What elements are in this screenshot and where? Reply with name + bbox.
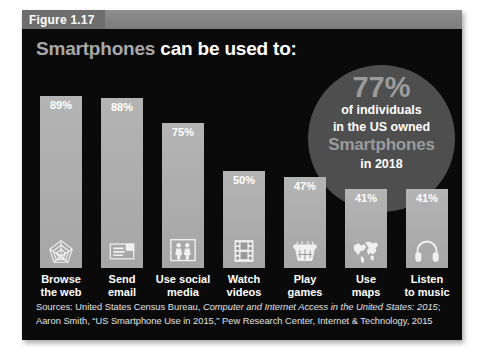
bar-label-line: Listen: [411, 273, 443, 285]
film-strip-icon: [230, 238, 258, 264]
bar: 75%: [162, 123, 204, 268]
bar-group-arcade-game: 47%Playgames: [284, 177, 326, 268]
world-map-icon: [352, 238, 380, 264]
figure-header-strip: Figure 1.17: [22, 10, 462, 29]
bar: 88%: [101, 98, 143, 268]
bar-value-label: 47%: [294, 180, 316, 192]
bar-label-line: the web: [41, 286, 82, 298]
bar-label-line: videos: [227, 286, 262, 298]
sources-citation: Sources: United States Census Bureau, Co…: [36, 301, 454, 328]
bar-category-label: Sendemail: [92, 273, 152, 300]
callout-line-4: in 2018: [308, 156, 455, 173]
sources-line-2: Aaron Smith, “US Smartphone Use in 2015,…: [36, 316, 433, 326]
bar-label-line: media: [167, 286, 199, 298]
bar-category-label: Listento music: [397, 273, 457, 300]
title-accent-word: Smartphones: [36, 38, 155, 59]
bar-label-line: Play: [294, 273, 317, 285]
bar-value-label: 88%: [111, 101, 133, 113]
bar-value-label: 41%: [416, 192, 438, 204]
people-icon: [169, 238, 197, 264]
bar-value-label: 89%: [50, 99, 72, 111]
sources-line-1-suffix: ;: [438, 302, 441, 312]
spider-web-icon: [47, 238, 75, 264]
page-title: Smartphones can be used to:: [36, 38, 297, 60]
bar-value-label: 75%: [172, 126, 194, 138]
bar-group-film-strip: 50%Watchvideos: [223, 171, 265, 268]
bar: 50%: [223, 171, 265, 268]
arcade-game-icon: [291, 238, 319, 264]
bar-category-label: Usemaps: [336, 273, 396, 300]
bar: 47%: [284, 177, 326, 268]
bar-label-line: Use social: [156, 273, 210, 285]
callout-line-1: of individuals: [308, 102, 455, 119]
callout-line-2: in the US owned: [308, 119, 455, 136]
bar-label-line: Send: [109, 273, 136, 285]
bar-group-headphones: 41%Listento music: [406, 189, 448, 268]
bar-value-label: 41%: [355, 192, 377, 204]
bar-category-label: Watchvideos: [214, 273, 274, 300]
bar-group-spider-web: 89%Browsethe web: [40, 96, 82, 268]
bar-category-label: Browsethe web: [31, 273, 91, 300]
bar-group-world-map: 41%Usemaps: [345, 189, 387, 268]
bar-label-line: email: [108, 286, 136, 298]
sources-line-1-italic: Computer and Internet Access in the Unit…: [203, 302, 438, 312]
bar-label-line: games: [288, 286, 323, 298]
bar-label-line: maps: [352, 286, 381, 298]
callout-percent: 77%: [308, 72, 455, 102]
figure-number-tab: Figure 1.17: [22, 10, 105, 29]
bar-category-label: Use socialmedia: [153, 273, 213, 300]
bar-label-line: Watch: [228, 273, 261, 285]
bar-label-line: Browse: [41, 273, 81, 285]
title-plain-words: can be used to:: [160, 38, 296, 59]
envelope-icon: [108, 238, 136, 264]
bar: 89%: [40, 96, 82, 268]
bar-category-label: Playgames: [275, 273, 335, 300]
bar-group-envelope: 88%Sendemail: [101, 98, 143, 268]
sources-line-1-prefix: Sources: United States Census Bureau,: [36, 302, 203, 312]
figure-number-label: Figure 1.17: [29, 13, 95, 27]
bar-group-people: 75%Use socialmedia: [162, 123, 204, 268]
bar-label-line: Use: [356, 273, 376, 285]
headphones-icon: [413, 238, 441, 264]
bar: 41%: [345, 189, 387, 268]
bar: 41%: [406, 189, 448, 268]
bar-label-line: to music: [404, 286, 449, 298]
figure-panel: Figure 1.17 Smartphones can be used to: …: [22, 10, 462, 340]
callout-line-3: Smartphones: [308, 135, 455, 155]
bar-value-label: 50%: [233, 174, 255, 186]
